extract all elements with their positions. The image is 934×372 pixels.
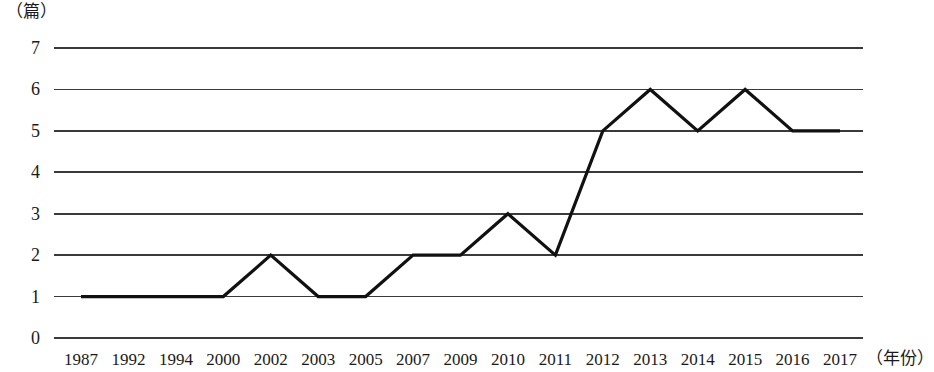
chart-plot-area <box>0 0 934 372</box>
x-tick-label: 2014 <box>673 350 723 369</box>
line-chart: （篇） 01234567 198719921994200020022003200… <box>0 0 934 372</box>
x-tick-label: 2011 <box>530 350 580 369</box>
series-polyline <box>81 89 840 296</box>
y-tick-label: 5 <box>14 122 40 140</box>
x-tick-label: 2000 <box>198 350 248 369</box>
x-tick-label: 1992 <box>103 350 153 369</box>
x-tick-label: 1987 <box>56 350 106 369</box>
y-tick-label: 0 <box>14 329 40 347</box>
x-tick-label: 2012 <box>578 350 628 369</box>
x-tick-label: 2003 <box>293 350 343 369</box>
y-tick-label: 3 <box>14 205 40 223</box>
x-tick-label: 2010 <box>483 350 533 369</box>
x-tick-label: 2017 <box>815 350 865 369</box>
x-tick-label: 2002 <box>246 350 296 369</box>
x-axis-title: （年份） <box>866 349 934 369</box>
y-tick-label: 1 <box>14 288 40 306</box>
x-tick-label: 2007 <box>388 350 438 369</box>
data-series-line <box>81 89 840 296</box>
x-tick-label: 2016 <box>768 350 818 369</box>
y-tick-label: 7 <box>14 39 40 57</box>
y-tick-label: 6 <box>14 80 40 98</box>
x-tick-label: 2013 <box>625 350 675 369</box>
x-tick-label: 1994 <box>151 350 201 369</box>
y-tick-label: 2 <box>14 246 40 264</box>
x-tick-label: 2005 <box>341 350 391 369</box>
x-tick-label: 2009 <box>436 350 486 369</box>
x-tick-label: 2015 <box>720 350 770 369</box>
y-tick-label: 4 <box>14 163 40 181</box>
